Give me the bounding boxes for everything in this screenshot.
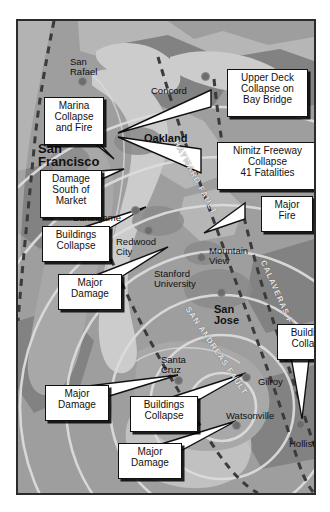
city-dot — [201, 72, 210, 81]
city-dot — [197, 253, 206, 262]
callout-nimitz: Nimitz Freeway Collapse 41 Fatalities — [217, 142, 316, 190]
callout-major-fire: Major Fire — [261, 196, 313, 232]
callout-buildings-1: Buildings Collapse — [42, 226, 110, 262]
city-dot — [217, 288, 226, 297]
city-dot — [144, 226, 153, 235]
city-dot — [174, 376, 183, 385]
city-dot — [296, 420, 305, 429]
city-dot — [131, 206, 140, 215]
callout-buildings-2: Buildings Collapse — [277, 324, 316, 360]
callout-major-damage-2: Major Damage — [45, 385, 109, 421]
callout-damage-som: Damage South of Market — [40, 170, 102, 218]
city-dot — [78, 77, 87, 86]
callout-buildings-3: Buildings Collapse — [130, 396, 198, 432]
map-frame: San RafaelConcordSan FranciscoOaklandBur… — [16, 19, 316, 495]
callout-major-damage-3: Major Damage — [118, 443, 182, 479]
callout-major-damage-1: Major Damage — [58, 274, 122, 310]
callout-upper-deck: Upper Deck Collapse on Bay Bridge — [227, 69, 308, 117]
callout-marina: Marina Collapse and Fire — [44, 97, 104, 145]
screenshot-root: San RafaelConcordSan FranciscoOaklandBur… — [0, 0, 330, 512]
city-dot — [232, 421, 241, 430]
city-dot — [242, 373, 251, 382]
